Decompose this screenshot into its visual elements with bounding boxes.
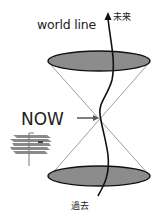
space-slices-icon	[10, 133, 52, 166]
now-label: NOW	[21, 109, 64, 129]
past-label: 過去	[71, 199, 89, 212]
cone-lines	[50, 64, 150, 176]
world-line-label: world line	[37, 17, 96, 32]
past-cone-ellipse	[48, 166, 150, 186]
world-line-arrowhead-icon	[105, 12, 112, 20]
future-cone-ellipse	[48, 51, 150, 71]
future-label: 未来	[113, 10, 131, 23]
